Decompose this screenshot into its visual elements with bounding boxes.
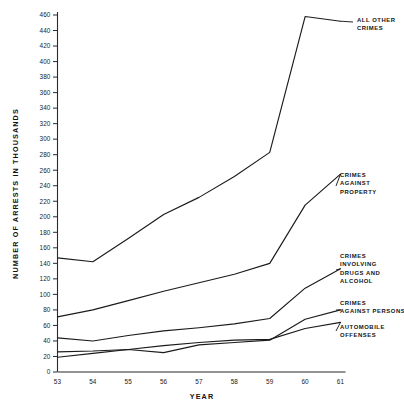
series-label: CRIMES — [340, 172, 366, 178]
series-label: PROPERTY — [340, 189, 377, 195]
series-label: AGAINST PERSONS — [340, 308, 404, 314]
y-tick-label: 180 — [40, 229, 51, 236]
y-tick-label: 320 — [40, 120, 51, 127]
series-label: INVOLVING — [340, 261, 377, 267]
series-labels: ALL OTHERCRIMESCRIMESAGAINSTPROPERTYCRIM… — [336, 17, 404, 338]
y-tick-label: 0 — [47, 368, 51, 375]
y-tick-label: 400 — [40, 58, 51, 65]
x-tick-label: 57 — [195, 378, 203, 385]
x-tick-label: 54 — [89, 378, 97, 385]
y-tick-label: 200 — [40, 213, 51, 220]
y-tick-label: 100 — [40, 291, 51, 298]
y-tick-label: 340 — [40, 104, 51, 111]
y-tick-label: 20 — [43, 353, 51, 360]
y-tick-label: 260 — [40, 167, 51, 174]
y-tick-label: 140 — [40, 260, 51, 267]
series-label: DRUGS AND — [340, 270, 380, 276]
y-axis-title: NUMBER OF ARRESTS IN THOUSANDS — [11, 108, 20, 279]
series-lines — [58, 17, 341, 358]
y-tick-label: 360 — [40, 89, 51, 96]
y-tick-label: 220 — [40, 198, 51, 205]
x-tick-label: 53 — [54, 378, 62, 385]
series-label: ALCOHOL — [340, 278, 373, 284]
y-tick-label: 280 — [40, 151, 51, 158]
y-tick-label: 80 — [43, 306, 51, 313]
y-tick-label: 460 — [40, 11, 51, 18]
y-tick-label: 420 — [40, 42, 51, 49]
x-tick-label: 55 — [125, 378, 133, 385]
x-axis-ticks: 535455565758596061 — [54, 378, 345, 385]
series-label: AGAINST — [340, 180, 370, 186]
series-label: OFFENSES — [340, 332, 376, 338]
series-label: ALL OTHER — [357, 17, 396, 23]
chart-plot-area: 0204060801001201401601802002202402602803… — [0, 0, 404, 415]
series-leader-line — [341, 21, 354, 22]
series-line — [58, 174, 341, 317]
series-label: CRIMES — [340, 253, 366, 259]
x-tick-label: 60 — [301, 378, 309, 385]
y-tick-label: 120 — [40, 275, 51, 282]
y-tick-label: 40 — [43, 337, 51, 344]
y-tick-label: 60 — [43, 322, 51, 329]
y-axis-ticks: 0204060801001201401601802002202402602803… — [40, 11, 57, 375]
x-tick-label: 56 — [160, 378, 168, 385]
x-axis-title: YEAR — [190, 392, 215, 401]
y-tick-label: 300 — [40, 135, 51, 142]
series-line — [58, 17, 341, 262]
x-tick-label: 61 — [337, 378, 345, 385]
series-label: CRIMES — [357, 25, 383, 31]
y-tick-label: 240 — [40, 182, 51, 189]
series-label: CRIMES — [340, 300, 366, 306]
y-tick-label: 440 — [40, 27, 51, 34]
x-tick-label: 59 — [266, 378, 274, 385]
line-chart: 0204060801001201401601802002202402602803… — [0, 0, 404, 415]
y-tick-label: 160 — [40, 244, 51, 251]
x-tick-label: 58 — [231, 378, 239, 385]
series-label: AUTOMOBILE — [340, 324, 385, 330]
y-tick-label: 380 — [40, 73, 51, 80]
